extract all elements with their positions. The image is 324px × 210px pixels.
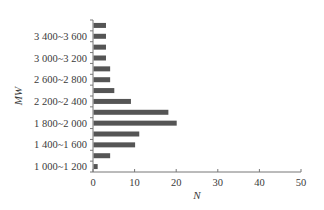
bar	[94, 88, 115, 93]
histogram-chart: 1 000~1 2001 400~1 6001 800~2 0002 200~2…	[0, 0, 324, 210]
bar	[94, 153, 111, 158]
y-tick-label: 1 400~1 600	[34, 139, 87, 150]
y-tick-label: 3 400~3 600	[34, 31, 87, 42]
x-tick-label: 20	[171, 177, 182, 188]
y-tick-label: 2 600~2 800	[34, 74, 87, 85]
x-tick-label: 30	[213, 177, 224, 188]
bar	[94, 23, 106, 28]
bar	[94, 121, 177, 126]
axes	[90, 20, 301, 172]
bar	[94, 34, 106, 39]
bar	[94, 66, 111, 71]
bar	[94, 110, 169, 115]
x-tick-label: 0	[90, 177, 95, 188]
y-tick-label: 2 200~2 400	[34, 96, 87, 107]
bar	[94, 99, 131, 104]
bar	[94, 142, 136, 147]
y-axis-title: MW	[12, 86, 24, 106]
x-tick-label: 10	[129, 177, 140, 188]
bar	[94, 77, 111, 82]
y-tick-label: 1 000~1 200	[34, 161, 87, 172]
bar	[94, 56, 106, 61]
labels: 1 000~1 2001 400~1 6001 800~2 0002 200~2…	[12, 31, 306, 201]
bar	[94, 132, 140, 137]
x-tick-label: 40	[254, 177, 265, 188]
bar	[94, 164, 98, 169]
y-tick-label: 3 000~3 200	[34, 53, 87, 64]
x-tick-label: 50	[296, 177, 307, 188]
bars	[94, 23, 177, 169]
x-axis-title: N	[192, 189, 201, 201]
bar	[94, 45, 106, 50]
y-tick-label: 1 800~2 000	[34, 118, 87, 129]
